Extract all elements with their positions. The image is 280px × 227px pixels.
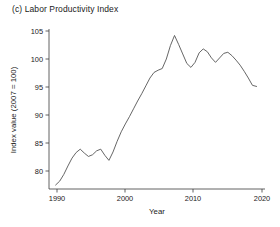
- y-axis-title: Index value (2007 = 100): [9, 66, 18, 153]
- y-axis-ticks: [46, 31, 50, 171]
- y-tick-label: 95: [35, 83, 43, 92]
- y-tick-label: 85: [35, 139, 43, 148]
- x-tick-label: 2010: [185, 194, 201, 203]
- y-axis-tick-labels: 105 100 95 90 85 80: [31, 27, 43, 176]
- y-tick-label: 105: [31, 27, 43, 36]
- x-axis-ticks: [57, 189, 262, 193]
- y-tick-label: 90: [35, 111, 43, 120]
- y-tick-label: 80: [35, 167, 43, 176]
- x-axis-title: Year: [149, 207, 165, 216]
- x-tick-label: 2020: [254, 194, 270, 203]
- x-tick-label: 2000: [117, 194, 133, 203]
- x-tick-label: 1990: [49, 194, 65, 203]
- y-tick-label: 100: [31, 55, 43, 64]
- line-chart-plot: 105 100 95 90 85 80 1990 2000 2010 2020 …: [0, 0, 280, 227]
- data-series-line: [56, 35, 257, 185]
- x-axis-tick-labels: 1990 2000 2010 2020: [49, 194, 270, 203]
- chart-figure: (c) Labor Productivity Index 105 100 95 …: [0, 0, 280, 227]
